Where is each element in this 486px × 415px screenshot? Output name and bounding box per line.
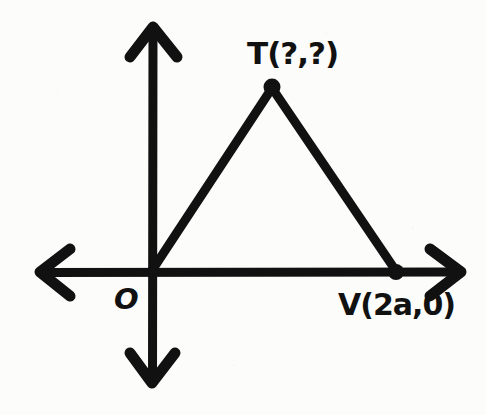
point-marker-T bbox=[264, 79, 281, 96]
y-axis-line bbox=[153, 30, 154, 380]
triangle-OTV bbox=[151, 88, 396, 272]
coordinate-axes-diagram bbox=[0, 0, 486, 415]
point-label-V: V(2a,0) bbox=[338, 290, 455, 320]
y-axis-group bbox=[130, 27, 177, 383]
point-label-origin: O bbox=[114, 285, 139, 314]
triangle-side-TV bbox=[272, 88, 396, 271]
triangle-side-OT bbox=[151, 88, 272, 272]
point-marker-V bbox=[388, 264, 404, 280]
point-label-T: T(?,?) bbox=[247, 38, 338, 69]
diagram-canvas: T(?,?) O V(2a,0) bbox=[0, 0, 486, 415]
